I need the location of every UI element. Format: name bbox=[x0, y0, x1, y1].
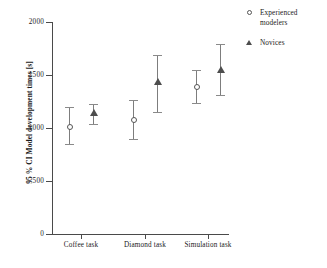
y-axis-tick bbox=[46, 181, 52, 182]
x-axis-tick bbox=[145, 234, 146, 239]
error-bar-cap bbox=[129, 100, 138, 101]
circle-marker-icon bbox=[246, 8, 260, 17]
y-axis-tick bbox=[46, 128, 52, 129]
triangle-marker-icon bbox=[154, 78, 162, 85]
chart-figure: 95 % CI Model development times [s] 0500… bbox=[0, 0, 327, 268]
y-axis-tick bbox=[46, 75, 52, 76]
y-axis-tick bbox=[46, 234, 52, 235]
x-axis-line bbox=[52, 234, 229, 235]
legend-label: Experienced modelers bbox=[260, 8, 326, 27]
error-bar-cap bbox=[65, 144, 74, 145]
circle-marker-icon bbox=[194, 84, 200, 90]
error-bar-cap bbox=[89, 124, 98, 125]
error-bar-cap bbox=[153, 55, 162, 56]
circle-marker-icon bbox=[131, 117, 137, 123]
y-axis-tick-label: 500 bbox=[0, 177, 44, 185]
y-axis-tick-label: 0 bbox=[0, 230, 44, 238]
x-axis-tick bbox=[208, 234, 209, 239]
error-bar-cap bbox=[129, 139, 138, 140]
legend: Experienced modelers Novices bbox=[246, 8, 326, 59]
y-axis-tick bbox=[46, 22, 52, 23]
legend-item-experienced-modelers: Experienced modelers bbox=[246, 8, 326, 27]
circle-marker-icon bbox=[67, 124, 73, 130]
error-bar-cap bbox=[192, 103, 201, 104]
error-bar-cap bbox=[153, 112, 162, 113]
x-axis-tick bbox=[81, 234, 82, 239]
y-axis-line bbox=[52, 22, 53, 235]
error-bar-cap bbox=[216, 44, 225, 45]
x-axis-tick-label: Simulation task bbox=[168, 241, 248, 250]
triangle-marker-icon bbox=[217, 66, 225, 73]
error-bar-cap bbox=[89, 104, 98, 105]
error-bar-cap bbox=[65, 107, 74, 108]
triangle-marker-icon bbox=[90, 109, 98, 116]
error-bar-cap bbox=[192, 70, 201, 71]
error-bar-cap bbox=[216, 95, 225, 96]
legend-item-novices: Novices bbox=[246, 38, 326, 48]
legend-label: Novices bbox=[260, 38, 285, 48]
y-axis-tick-label: 2000 bbox=[0, 18, 44, 26]
y-axis-tick-label: 1000 bbox=[0, 124, 44, 132]
triangle-marker-icon bbox=[246, 38, 260, 47]
y-axis-tick-label: 1500 bbox=[0, 71, 44, 79]
